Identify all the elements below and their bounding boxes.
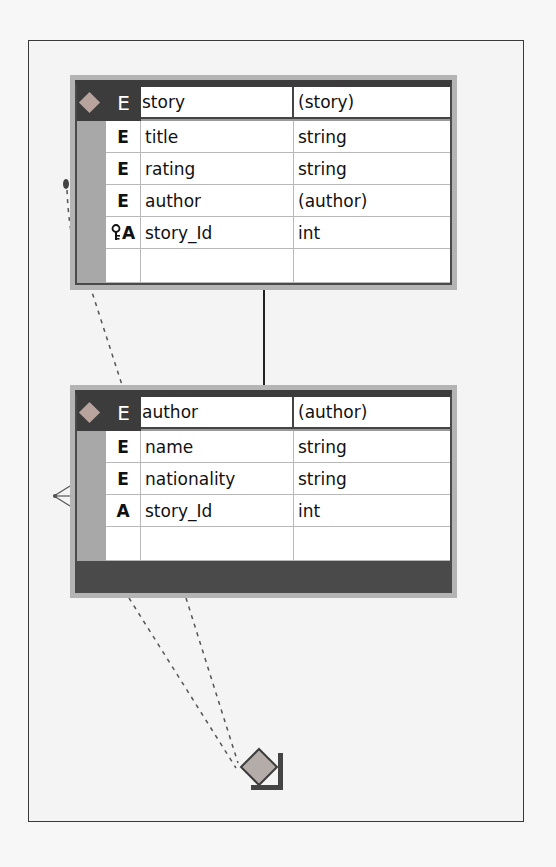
table-row[interactable]: E title string: [106, 121, 450, 153]
field-type[interactable]: string: [294, 153, 450, 185]
field-name[interactable]: story_Id: [141, 495, 294, 527]
entity-type[interactable]: (author): [294, 397, 450, 429]
entity-author-body: E author (author) E name string E nation…: [75, 390, 452, 593]
empty-row[interactable]: [106, 527, 450, 561]
attribute-icon: A: [122, 223, 135, 243]
element-kind-label: E: [106, 397, 141, 429]
table-row[interactable]: E author (author): [106, 185, 450, 217]
entity-name[interactable]: story: [141, 87, 294, 119]
entity-name[interactable]: author: [141, 397, 294, 429]
field-type[interactable]: int: [294, 217, 450, 249]
element-kind-label: E: [106, 87, 141, 119]
empty-name-cell[interactable]: [141, 527, 294, 561]
key-attribute-cell: A: [106, 217, 141, 249]
field-type[interactable]: int: [294, 495, 450, 527]
field-name[interactable]: author: [141, 185, 294, 217]
field-type[interactable]: string: [294, 431, 450, 463]
field-type[interactable]: (author): [294, 185, 450, 217]
entity-type[interactable]: (story): [294, 87, 450, 119]
entity-footer-bar: [77, 561, 450, 591]
element-icon: E: [106, 431, 141, 463]
table-row[interactable]: A story_Id int: [106, 217, 450, 249]
empty-name-cell[interactable]: [141, 249, 294, 283]
field-name[interactable]: story_Id: [141, 217, 294, 249]
element-icon: E: [106, 121, 141, 153]
entity-header-row[interactable]: E story (story): [106, 87, 450, 119]
field-name[interactable]: name: [141, 431, 294, 463]
entity-story-body: E story (story) E title string E rating …: [75, 80, 452, 285]
table-row[interactable]: E name string: [106, 431, 450, 463]
empty-row[interactable]: [106, 249, 450, 283]
table-row[interactable]: A story_Id int: [106, 495, 450, 527]
empty-kind-cell: [106, 527, 141, 561]
table-row[interactable]: E nationality string: [106, 463, 450, 495]
field-name[interactable]: nationality: [141, 463, 294, 495]
field-name[interactable]: title: [141, 121, 294, 153]
element-icon: E: [106, 463, 141, 495]
empty-kind-cell: [106, 249, 141, 283]
field-type[interactable]: string: [294, 121, 450, 153]
element-icon: E: [106, 153, 141, 185]
field-type[interactable]: string: [294, 463, 450, 495]
empty-type-cell[interactable]: [294, 527, 450, 561]
entity-author[interactable]: E author (author) E name string E nation…: [70, 385, 457, 598]
field-name[interactable]: rating: [141, 153, 294, 185]
table-row[interactable]: E rating string: [106, 153, 450, 185]
empty-type-cell[interactable]: [294, 249, 450, 283]
element-icon: E: [106, 185, 141, 217]
key-icon: [111, 224, 122, 241]
entity-header-row[interactable]: E author (author): [106, 397, 450, 429]
entity-story[interactable]: E story (story) E title string E rating …: [70, 75, 457, 290]
attribute-icon: A: [106, 495, 141, 527]
